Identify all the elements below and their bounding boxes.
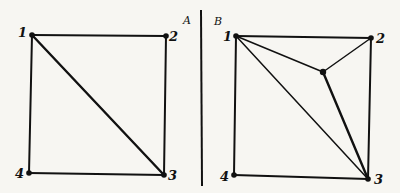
edge-b-1-3-diagonal <box>236 36 368 179</box>
vertex-b-1 <box>233 33 239 39</box>
edge-a-1-2 <box>32 35 166 36</box>
edge-b-center-3 <box>323 72 368 179</box>
edge-a-4-1 <box>29 35 32 173</box>
edge-b-2-center <box>323 38 371 72</box>
vertex-label-b-4: 4 <box>220 170 229 183</box>
vertex-b-2 <box>368 35 374 41</box>
vertex-label-b-1: 1 <box>223 30 232 43</box>
edge-b-1-center <box>236 36 323 72</box>
diagram-figure: A B 1 2 3 4 1 2 3 4 <box>0 0 400 193</box>
vertex-b-3 <box>365 176 371 182</box>
vertex-a-2 <box>163 33 169 39</box>
edge-b-4-1 <box>234 36 236 175</box>
panel-label-a: A <box>183 14 191 27</box>
edge-b-3-4 <box>234 175 368 179</box>
edge-a-1-3-diagonal <box>32 35 164 175</box>
edge-a-3-4 <box>29 173 164 175</box>
vertex-a-4 <box>26 170 32 176</box>
vertex-label-a-1: 1 <box>18 26 27 39</box>
diagram-canvas <box>0 0 400 193</box>
edge-a-2-3 <box>164 36 166 175</box>
vertex-label-a-2: 2 <box>169 30 178 43</box>
vertex-label-b-3: 3 <box>374 173 383 186</box>
vertex-a-1 <box>29 32 35 38</box>
vertex-label-a-3: 3 <box>168 169 177 182</box>
panel-a <box>29 35 166 175</box>
vertex-b-center <box>320 69 326 75</box>
vertex-label-a-4: 4 <box>15 167 24 180</box>
vertex-label-b-2: 2 <box>376 32 385 45</box>
vertex-a-3 <box>161 172 167 178</box>
vertex-b-4 <box>231 172 237 178</box>
panel-label-b: B <box>214 15 222 28</box>
panel-b <box>234 36 371 179</box>
edge-b-2-3 <box>368 38 371 179</box>
panel-divider <box>201 10 202 186</box>
edge-b-1-2 <box>236 36 371 38</box>
